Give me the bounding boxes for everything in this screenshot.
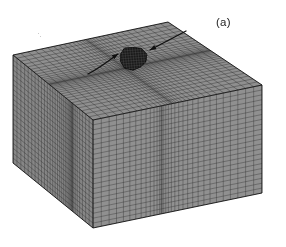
figure-root: (a) [0,0,286,247]
subfigure-label: (a) [216,16,231,28]
finite-element-mesh-block [0,0,286,247]
